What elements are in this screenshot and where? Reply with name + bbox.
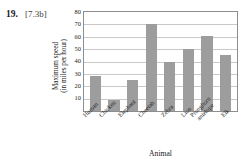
bar — [146, 24, 157, 111]
bar-slot — [142, 12, 161, 111]
bar-chart-plot-area — [83, 11, 238, 112]
exercise-number: 19. — [6, 9, 18, 19]
bar-slot — [86, 12, 105, 111]
y-axis-title-line1: Maximum speed — [52, 39, 60, 93]
x-axis-title: Animal — [83, 149, 238, 158]
bar-slot — [105, 12, 124, 111]
bar-slot — [161, 12, 180, 111]
y-axis-title: Maximum speed (in miles per hour) — [52, 18, 68, 114]
y-tick-label: 80 — [75, 9, 81, 15]
bar-slot — [179, 12, 198, 111]
exercise-reference: [7.3b] — [25, 9, 47, 19]
bar-slot — [216, 12, 235, 111]
y-tick-label: 70 — [75, 21, 81, 27]
y-axis-tick-labels: 1020304050607080 — [68, 8, 81, 112]
y-tick-label: 50 — [75, 46, 81, 52]
y-axis-title-line2: (in miles per hour) — [60, 39, 68, 93]
x-axis-category-labels: HumanChickenElephantCheetahZebraLionPron… — [83, 113, 238, 147]
y-tick-label: 60 — [75, 34, 81, 40]
bar — [220, 55, 231, 111]
y-tick-label: 30 — [75, 71, 81, 77]
bar — [183, 49, 194, 111]
bar-slot — [123, 12, 142, 111]
y-tick-label: 40 — [75, 58, 81, 64]
y-tick-label: 20 — [75, 83, 81, 89]
y-tick-label: 10 — [75, 95, 81, 101]
exercise-figure-page: 19. [7.3b] Maximum speed (in miles per h… — [0, 0, 251, 165]
chart-bars — [84, 12, 237, 111]
